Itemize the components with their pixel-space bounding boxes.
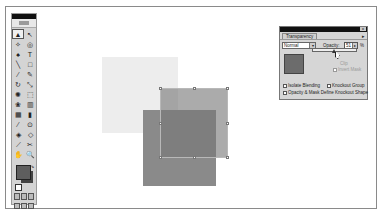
knockout-group-label: Knockout Group bbox=[332, 83, 365, 88]
selection-handle[interactable] bbox=[226, 156, 229, 159]
default-colors-icon[interactable] bbox=[15, 184, 22, 191]
knockout-group-checkbox[interactable] bbox=[327, 84, 331, 88]
gradient-tool-icon[interactable]: ▮ bbox=[24, 109, 36, 119]
color-mode-buttons bbox=[12, 193, 36, 200]
hand-tool-icon[interactable]: ✋ bbox=[12, 149, 24, 159]
warp-tool-icon[interactable]: ✺ bbox=[12, 89, 24, 99]
rotate-tool-icon[interactable]: ↻ bbox=[12, 79, 24, 89]
isolate-blending-checkbox[interactable] bbox=[283, 84, 287, 88]
selection-handle[interactable] bbox=[193, 87, 196, 90]
zoom-tool-icon[interactable]: 🔍 bbox=[24, 149, 36, 159]
opacity-mask-knockout-label: Opacity & Mask Define Knockout Shape bbox=[288, 90, 368, 95]
selection-handle[interactable] bbox=[159, 122, 162, 125]
selection-bounding-box bbox=[160, 88, 228, 158]
close-icon[interactable]: x bbox=[360, 27, 366, 31]
direct-selection-tool-icon[interactable]: ↖ bbox=[24, 29, 36, 39]
tab-transparency[interactable]: Transparency bbox=[282, 33, 317, 39]
none-button[interactable] bbox=[28, 193, 34, 200]
pencil-tool-icon[interactable]: ✎ bbox=[24, 69, 36, 79]
selection-handle[interactable] bbox=[159, 156, 162, 159]
percent-label: % bbox=[360, 43, 364, 48]
selection-handle[interactable] bbox=[226, 122, 229, 125]
full-screen-menu-mode-button[interactable] bbox=[21, 203, 27, 209]
blend-tool-icon[interactable]: ⊙ bbox=[24, 119, 36, 129]
blend-mode-select[interactable]: Normal ▾ bbox=[282, 42, 316, 49]
isolate-blending-label: Isolate Blending bbox=[288, 83, 320, 88]
gradient-button[interactable] bbox=[21, 193, 27, 200]
live-paint-selection-tool-icon[interactable]: ◇ bbox=[24, 129, 36, 139]
slice-tool-icon[interactable]: ⟋ bbox=[12, 139, 24, 149]
knockout-group-option[interactable]: Knockout Group bbox=[327, 83, 365, 88]
free-transform-tool-icon[interactable]: ⬚ bbox=[24, 89, 36, 99]
invert-mask-label: Invert Mask bbox=[338, 67, 361, 72]
lasso-tool-icon[interactable]: ◎ bbox=[24, 39, 36, 49]
live-paint-tool-icon[interactable]: ◈ bbox=[12, 129, 24, 139]
isolate-blending-option[interactable]: Isolate Blending bbox=[283, 83, 320, 88]
paintbrush-tool-icon[interactable]: ⁄ bbox=[12, 69, 24, 79]
eyedropper-tool-icon[interactable]: ⁄ bbox=[12, 119, 24, 129]
blend-mode-value: Normal bbox=[284, 43, 299, 48]
graph-tool-icon[interactable]: ▥ bbox=[24, 99, 36, 109]
scissors-tool-icon[interactable]: ✂ bbox=[24, 139, 36, 149]
symbol-sprayer-tool-icon[interactable]: ❀ bbox=[12, 99, 24, 109]
tool-grid: ▲↖✧◎♠T╲□⁄✎↻⤡✺⬚❀▥▦▮⁄⊙◈◇⟋✂✋🔍 bbox=[12, 28, 36, 159]
color-controls: ↷ bbox=[12, 163, 36, 191]
mesh-tool-icon[interactable]: ▦ bbox=[12, 109, 24, 119]
app-logo[interactable] bbox=[12, 19, 36, 28]
scale-tool-icon[interactable]: ⤡ bbox=[24, 79, 36, 89]
panel-tab-row: Transparency ▸ bbox=[280, 32, 367, 40]
invert-mask-option[interactable]: Invert Mask bbox=[333, 67, 361, 72]
selection-tool-icon[interactable]: ▲ bbox=[12, 29, 24, 39]
magic-wand-tool-icon[interactable]: ✧ bbox=[12, 39, 24, 49]
transparency-panel: x Transparency ▸ Normal ▾ Opacity: 51 ▸ … bbox=[279, 26, 368, 100]
line-tool-icon[interactable]: ╲ bbox=[12, 59, 24, 69]
rectangle-tool-icon[interactable]: □ bbox=[24, 59, 36, 69]
type-tool-icon[interactable]: T bbox=[24, 49, 36, 59]
clip-label: Clip bbox=[340, 61, 348, 66]
color-button[interactable] bbox=[14, 193, 20, 200]
opacity-mask-knockout-option[interactable]: Opacity & Mask Define Knockout Shape bbox=[283, 90, 368, 95]
pen-tool-icon[interactable]: ♠ bbox=[12, 49, 24, 59]
fill-swatch[interactable] bbox=[16, 165, 31, 180]
full-screen-mode-button[interactable] bbox=[28, 203, 34, 209]
selection-handle[interactable] bbox=[226, 87, 229, 90]
selection-handle[interactable] bbox=[193, 156, 196, 159]
selection-handle[interactable] bbox=[159, 87, 162, 90]
panel-menu-icon[interactable]: ▸ bbox=[362, 33, 365, 39]
mouse-pointer-icon bbox=[335, 51, 340, 59]
standard-screen-mode-button[interactable] bbox=[14, 203, 20, 209]
knockout-options: Isolate Blending Knockout Group Opacity … bbox=[283, 82, 373, 96]
opacity-mask-knockout-checkbox[interactable] bbox=[283, 91, 287, 95]
screen-mode-buttons bbox=[12, 203, 36, 209]
object-thumbnail[interactable] bbox=[284, 54, 304, 74]
invert-mask-checkbox[interactable] bbox=[333, 68, 337, 72]
tools-panel: ▲↖✧◎♠T╲□⁄✎↻⤡✺⬚❀▥▦▮⁄⊙◈◇⟋✂✋🔍 ↷ bbox=[11, 13, 37, 205]
